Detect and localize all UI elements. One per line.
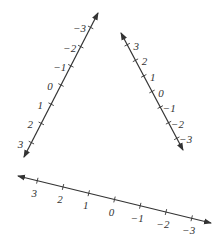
tick-label: 0 [47,80,53,92]
tick-label: −1 [53,61,66,73]
number-lines-diagram: 3210−1−2−33210−1−2−33210−1−2−3 [0,0,222,248]
tick-label: 2 [28,118,34,130]
tick-label: 2 [57,193,63,205]
tick-label: 0 [158,87,164,99]
tick-label: 3 [17,138,24,150]
tick-label: −2 [156,218,169,230]
tick-label: −2 [171,118,184,130]
number-line-bottom: 3210−1−2−3 [18,176,211,236]
number-line-right: 3210−1−2−3 [121,33,193,150]
tick-label: 3 [31,187,38,199]
tick-label: 0 [109,206,115,218]
tick-label: 3 [132,40,139,52]
tick-label: −3 [179,133,192,145]
tick-label: 1 [83,199,89,211]
tick-label: −1 [163,102,176,114]
tick-label: −3 [182,224,195,236]
number-line-left: 3210−1−2−3 [17,13,98,157]
tick-label: −3 [73,22,86,34]
tick-label: 1 [150,71,156,83]
tick-label: −1 [131,212,144,224]
tick-label: 1 [37,99,43,111]
tick-label: −2 [63,42,76,54]
tick-label: 2 [142,55,148,67]
